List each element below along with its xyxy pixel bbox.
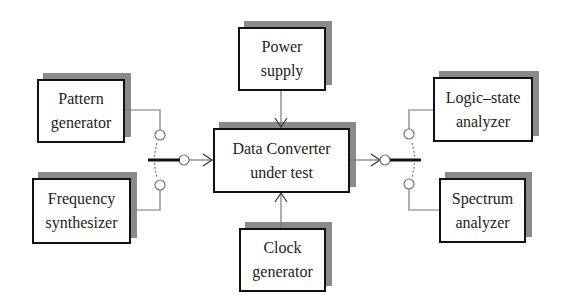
- box-label: Spectrum: [452, 187, 513, 211]
- box-label: Data Converter: [232, 137, 330, 161]
- box-label: Pattern: [58, 87, 103, 111]
- box-label: generator: [51, 111, 111, 135]
- logic-line: [409, 110, 433, 129]
- box-label: analyzer: [455, 211, 509, 235]
- power-supply-box: Power supply: [238, 27, 326, 91]
- box-label: supply: [261, 59, 304, 83]
- frequency-synthesizer-box: Frequency synthesizer: [32, 178, 131, 244]
- box-label: Clock: [263, 236, 301, 260]
- spectrum-analyzer-box: Spectrum analyzer: [439, 178, 526, 243]
- spectrum-line: [409, 189, 439, 210]
- logic-state-analyzer-box: Logic–state analyzer: [433, 77, 533, 142]
- pattern-generator-box: Pattern generator: [37, 79, 125, 143]
- box-label: synthesizer: [46, 211, 118, 235]
- data-converter-box: Data Converter under test: [213, 128, 350, 193]
- pattern-line: [125, 110, 160, 130]
- box-label: Logic–state: [446, 86, 521, 110]
- box-label: Frequency: [48, 187, 116, 211]
- box-label: generator: [252, 260, 312, 284]
- box-label: under test: [250, 161, 313, 185]
- box-label: Power: [262, 35, 303, 59]
- box-label: analyzer: [456, 110, 510, 134]
- clock-generator-box: Clock generator: [239, 228, 326, 292]
- frequency-line: [131, 190, 160, 210]
